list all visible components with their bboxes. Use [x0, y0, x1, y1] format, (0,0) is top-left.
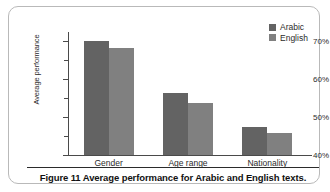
legend-swatch-icon-english: [269, 34, 276, 41]
y-tick-major: [63, 79, 68, 80]
bar-english-age-range: [188, 103, 213, 155]
caption-separator: [27, 167, 319, 168]
bar-group: [69, 33, 148, 155]
bar-arabic-age-range: [163, 93, 188, 155]
y-axis-title: Average performance: [32, 15, 41, 125]
y-tick-major: [63, 117, 68, 118]
chart-plot-area: Average performance 40%50%60%70% GenderA…: [17, 13, 329, 161]
figure-caption: Figure 11 Average performance for Arabic…: [23, 172, 323, 183]
figure-frame: Average performance 40%50%60%70% GenderA…: [8, 6, 320, 184]
bar-english-nationality: [267, 133, 292, 155]
legend-item-arabic: Arabic: [269, 23, 308, 32]
bar-group: [148, 33, 227, 155]
y-tick-major: [63, 155, 68, 156]
legend-swatch-icon-arabic: [269, 24, 276, 31]
x-axis-line: [68, 155, 312, 156]
bar-arabic-gender: [84, 41, 109, 155]
bar-arabic-nationality: [242, 127, 267, 155]
y-tick-minor: [64, 60, 68, 61]
y-tick-major: [63, 41, 68, 42]
y-tick-minor: [64, 98, 68, 99]
bar-english-gender: [109, 48, 134, 155]
y-tick-minor: [64, 136, 68, 137]
legend-item-english: English: [269, 34, 308, 43]
chart-legend: Arabic English: [269, 23, 308, 44]
legend-label-arabic: Arabic: [280, 23, 304, 32]
legend-label-english: English: [280, 34, 308, 43]
bar-group: [228, 33, 307, 155]
bar-groups: [69, 33, 307, 155]
